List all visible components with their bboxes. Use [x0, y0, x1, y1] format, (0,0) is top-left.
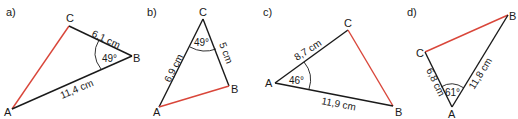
- vertex-a: A: [448, 108, 456, 119]
- triangle-c: c) C B A 8,7 cm 11,9 cm 46°: [263, 6, 402, 118]
- measure-ac: 6,9 cm: [162, 52, 185, 84]
- triangle-exercises-figure: a) C B A 6,1 cm 11,4 cm 49° b) C B A 6,9…: [0, 0, 518, 119]
- vertex-a: A: [265, 77, 273, 89]
- vertex-c: C: [66, 12, 74, 24]
- measure-cb: 6,1 cm: [90, 28, 122, 51]
- triangle-a: a) C B A 6,1 cm 11,4 cm 49°: [4, 6, 140, 118]
- angle-c-value: 49°: [194, 37, 209, 48]
- angle-b-value: 49°: [102, 53, 117, 64]
- part-label-b: b): [147, 6, 157, 18]
- vertex-a: A: [153, 106, 161, 118]
- side-cb-highlighted: [425, 15, 508, 52]
- vertex-a: A: [4, 106, 12, 118]
- part-label-a: a): [6, 6, 16, 18]
- side-ac: [275, 30, 348, 83]
- vertex-b: B: [231, 83, 238, 95]
- angle-arc-a: [304, 62, 311, 89]
- vertex-b: B: [395, 106, 402, 118]
- vertex-b: B: [509, 10, 516, 22]
- triangle-d: d) C B A 6,8 cm 11,8 cm 61°: [407, 6, 516, 119]
- part-label-d: d): [407, 6, 417, 18]
- angle-a-value: 46°: [289, 75, 304, 86]
- vertex-c: C: [416, 47, 424, 59]
- angle-a-value: 61°: [445, 87, 460, 98]
- part-label-c: c): [263, 6, 272, 18]
- vertex-c: C: [344, 17, 352, 29]
- measure-ca: 6,8 cm: [424, 66, 447, 98]
- side-cb-highlighted: [348, 30, 393, 106]
- triangle-b: b) C B A 6,9 cm 5 cm 49°: [147, 6, 238, 118]
- vertex-c: C: [199, 6, 207, 18]
- vertex-b: B: [133, 52, 140, 64]
- side-ab: [452, 15, 508, 107]
- side-ab-highlighted: [159, 86, 229, 107]
- angle-arc-b: [95, 40, 101, 69]
